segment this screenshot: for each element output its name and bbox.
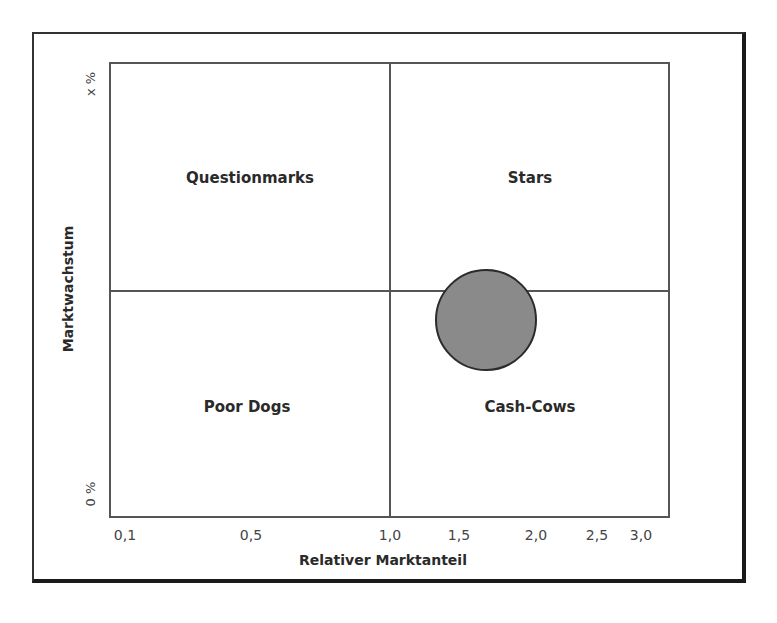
x-tick-label: 1,5 — [448, 527, 470, 543]
x-tick-label: 3,0 — [630, 527, 652, 543]
quadrant-label-cash-cows: Cash-Cows — [484, 398, 575, 416]
quadrant-label-stars: Stars — [508, 169, 552, 187]
x-tick-label: 0,5 — [240, 527, 262, 543]
data-bubble — [435, 269, 537, 371]
x-tick-label: 1,0 — [379, 527, 401, 543]
y-axis-label: Marktwachstum — [60, 226, 76, 353]
quadrant-label-poor-dogs: Poor Dogs — [204, 398, 291, 416]
x-tick-label: 0,1 — [114, 527, 136, 543]
quadrant-label-questionmarks: Questionmarks — [186, 169, 314, 187]
x-axis-label: Relativer Marktanteil — [299, 552, 467, 568]
x-tick-label: 2,5 — [586, 527, 608, 543]
x-tick-label: 2,0 — [525, 527, 547, 543]
y-tick-top: x % — [83, 72, 98, 96]
horizontal-divider — [109, 290, 670, 292]
y-tick-bottom: 0 % — [83, 482, 98, 507]
